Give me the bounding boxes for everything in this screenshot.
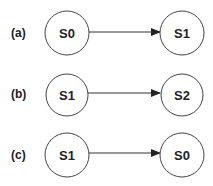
state-label-from-c: S1 (59, 148, 75, 163)
state-label-from-b: S1 (59, 88, 75, 103)
row-a: (a) S0 S1 (11, 11, 204, 55)
row-label-a: (a) (11, 26, 26, 40)
state-transition-diagram: (a) S0 S1 (b) S1 S2 (c) S1 S0 (0, 0, 213, 186)
row-label-c: (c) (11, 148, 26, 162)
state-label-from-a: S0 (59, 26, 75, 41)
row-label-b: (b) (11, 87, 26, 101)
row-c: (c) S1 S0 (11, 133, 204, 177)
state-label-to-c: S0 (174, 148, 190, 163)
state-label-to-b: S2 (174, 88, 190, 103)
state-label-to-a: S1 (174, 26, 190, 41)
row-b: (b) S1 S2 (11, 74, 203, 116)
